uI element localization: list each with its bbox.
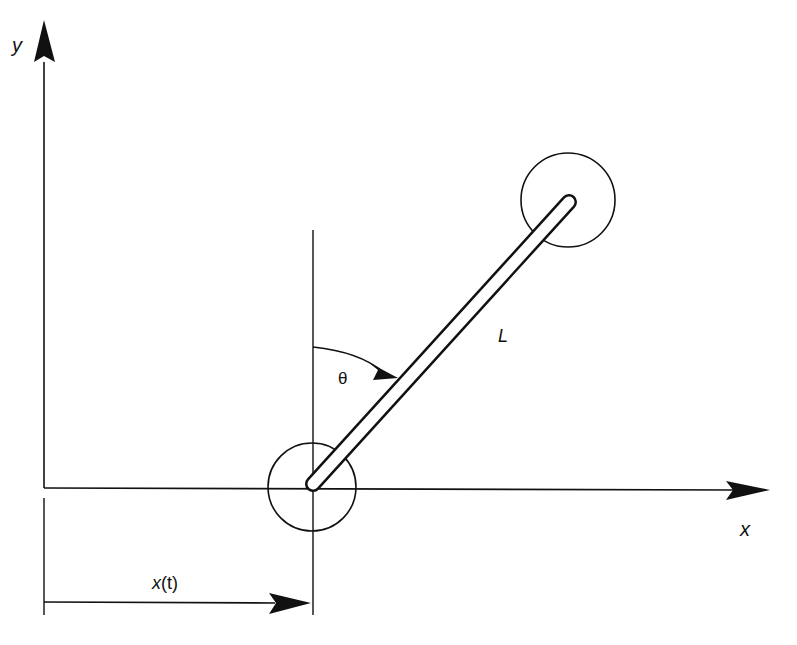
displacement-arrow-line xyxy=(44,602,275,603)
displacement-label: x(t) xyxy=(151,573,178,593)
y-axis-label: y xyxy=(10,34,23,56)
displacement-arg: (t) xyxy=(161,573,178,593)
angle-label: θ xyxy=(338,369,347,388)
displacement-arrowhead-icon xyxy=(269,593,311,614)
length-label: L xyxy=(498,326,508,346)
x-axis-label: x xyxy=(739,518,751,540)
y-axis-arrowhead-icon xyxy=(34,20,55,62)
pendulum-diagram: y x θ L x(t) xyxy=(0,0,797,645)
pendulum-rod xyxy=(313,202,569,484)
x-axis-line xyxy=(44,488,735,490)
angle-arrowhead-icon xyxy=(368,362,398,380)
angle-arc xyxy=(313,347,383,372)
